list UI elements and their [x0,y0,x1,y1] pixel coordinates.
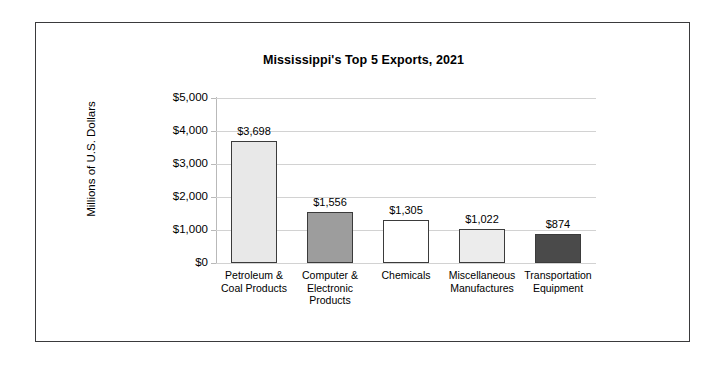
x-axis-category-label: Petroleum &Coal Products [213,269,295,294]
x-axis-category-line: Coal Products [213,282,295,295]
bar-value-label: $3,698 [216,125,292,137]
x-axis-category-line: Equipment [517,282,599,295]
bar[interactable] [535,234,581,263]
x-axis-category-line: Miscellaneous [441,269,523,282]
x-axis-category-line: Computer & [289,269,371,282]
y-axis-title: Millions of U.S. Dollars [85,69,97,249]
bar[interactable] [459,229,505,263]
y-axis-tick-label: $1,000 [146,223,208,235]
bar[interactable] [231,141,277,263]
y-axis-tick-label: $5,000 [146,91,208,103]
bar-value-label: $1,305 [368,204,444,216]
chart-title: Mississippi's Top 5 Exports, 2021 [36,53,691,67]
bar[interactable] [383,220,429,263]
x-axis-category-line: Petroleum & [213,269,295,282]
y-axis-tick [211,230,216,231]
gridline [216,98,596,99]
y-axis-tick [211,263,216,264]
y-axis-tick-label: $0 [146,256,208,268]
x-axis-category-label: Computer &ElectronicProducts [289,269,371,307]
x-axis-category-line: Products [289,294,371,307]
y-axis-tick-labels: $5,000$4,000$3,000$2,000$1,000$0 [144,98,208,263]
y-axis-tick [211,98,216,99]
chart-frame: Mississippi's Top 5 Exports, 2021 Millio… [35,22,690,342]
bar[interactable] [307,212,353,263]
y-axis-tick-label: $3,000 [146,157,208,169]
y-axis-tick [211,197,216,198]
bar-value-label: $1,556 [292,196,368,208]
y-axis-tick-label: $2,000 [146,190,208,202]
y-axis-tick-label: $4,000 [146,124,208,136]
x-axis-category-line: Transportation [517,269,599,282]
x-axis-category-label: MiscellaneousManufactures [441,269,523,294]
x-axis-category-label: TransportationEquipment [517,269,599,294]
chart-figure: Mississippi's Top 5 Exports, 2021 Millio… [0,0,725,367]
x-axis-category-line: Manufactures [441,282,523,295]
gridline [216,263,596,264]
bar-value-label: $874 [520,218,596,230]
bar-value-label: $1,022 [444,213,520,225]
y-axis-tick [211,164,216,165]
x-axis-category-line: Electronic [289,282,371,295]
x-axis-category-line: Chemicals [365,269,447,282]
x-axis-category-label: Chemicals [365,269,447,282]
plot-area: $3,698$1,556$1,305$1,022$874 [216,98,596,263]
